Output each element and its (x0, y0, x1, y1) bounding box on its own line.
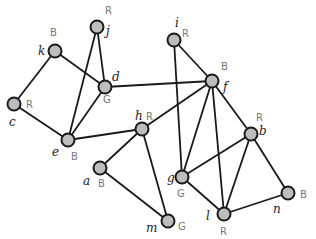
node-color-annotation: G (103, 94, 111, 105)
node-color-annotation: G (177, 188, 185, 199)
edge-b-n (251, 134, 288, 193)
node-d (99, 81, 112, 94)
node-label: l (206, 209, 210, 223)
node-h (136, 123, 149, 136)
node-color-annotation: R (256, 112, 263, 123)
node-label: k (38, 44, 45, 58)
node-label: c (9, 115, 16, 129)
node-n (282, 187, 295, 200)
edge-g-l (182, 177, 224, 214)
node-color-annotation: R (26, 99, 33, 110)
edge-b-l (224, 134, 251, 214)
node-k (49, 45, 62, 58)
node-label: g (167, 171, 175, 185)
edge-j-e (68, 27, 97, 140)
node-color-annotation: B (221, 61, 228, 72)
node-color-annotation: B (300, 189, 307, 200)
node-label: i (175, 16, 179, 30)
node-g (176, 171, 189, 184)
node-color-annotation: B (71, 151, 78, 162)
edge-f-b (212, 81, 251, 134)
node-color-annotation: R (182, 28, 189, 39)
node-i (168, 34, 181, 47)
node-j (91, 21, 104, 34)
node-c (8, 98, 21, 111)
node-b (245, 128, 258, 141)
edge-f-g (182, 81, 212, 177)
node-color-annotation: R (220, 226, 227, 237)
node-label: m (146, 221, 157, 235)
node-e (62, 134, 75, 147)
node-color-annotation: B (50, 27, 57, 38)
node-color-annotation: R (146, 111, 153, 122)
node-label: b (259, 124, 267, 138)
node-label: f (222, 80, 230, 94)
node-color-annotation: B (98, 178, 105, 189)
node-f (206, 75, 219, 88)
edge-i-g (174, 40, 182, 177)
node-m (162, 215, 175, 228)
edge-f-l (212, 81, 224, 214)
graph-svg: jRkBdGcReBhRaBmGiRfBbRgGnBlR (0, 0, 316, 239)
edge-d-e (68, 87, 105, 140)
edge-j-d (97, 27, 105, 87)
node-label: a (83, 174, 90, 188)
node-label: d (112, 70, 120, 84)
node-label: n (273, 202, 281, 216)
node-label: e (52, 145, 59, 159)
node-l (218, 208, 231, 221)
edge-d-f (105, 81, 212, 87)
node-a (94, 162, 107, 175)
edge-h-m (142, 129, 168, 221)
node-label: h (135, 109, 143, 123)
node-color-annotation: R (105, 5, 112, 16)
edge-i-f (174, 40, 212, 81)
graph-canvas: jRkBdGcReBhRaBmGiRfBbRgGnBlR (0, 0, 316, 239)
edge-k-d (55, 51, 105, 87)
edge-a-m (100, 168, 168, 221)
edge-c-e (14, 104, 68, 140)
edge-k-c (14, 51, 55, 104)
node-color-annotation: G (178, 221, 186, 232)
